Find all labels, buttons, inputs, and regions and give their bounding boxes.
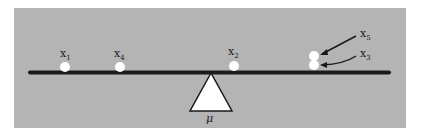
fulcrum-label-mu: μ (206, 112, 213, 125)
point-x4 (115, 62, 125, 72)
arrowhead-x3 (320, 62, 327, 68)
label-x5: x5 (360, 27, 371, 42)
fulcrum-triangle (190, 73, 232, 111)
label-x4: x4 (114, 47, 125, 62)
seesaw-diagram: x1 x4 x2 x5 x3 μ (0, 0, 422, 134)
label-x3: x3 (360, 47, 371, 62)
point-x3 (309, 60, 319, 70)
point-x2 (229, 61, 239, 71)
label-x2: x2 (228, 45, 239, 60)
arrow-x3 (322, 56, 356, 65)
arrowhead-x5 (320, 49, 328, 55)
label-x1: x1 (60, 47, 71, 62)
point-x5 (309, 51, 319, 61)
point-x1 (60, 62, 70, 72)
